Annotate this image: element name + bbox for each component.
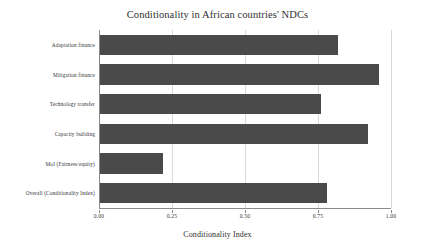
chart-figure: Conditionality in African countries' NDC…	[0, 0, 435, 251]
y-axis-label: Adaptation finance	[0, 42, 95, 48]
x-axis-tick-labels: 0.000.250.500.751.00	[0, 210, 435, 224]
y-axis-label: Overall (Conditionality Index)	[0, 190, 95, 196]
x-axis-tick-label: 0.50	[240, 213, 251, 219]
x-axis-title: Conditionality Index	[0, 230, 435, 239]
x-axis-tick-label: 0.25	[167, 213, 178, 219]
y-axis-category-labels: Adaptation financeMitigation financeTech…	[0, 30, 95, 208]
y-axis-label: Technology transfer	[0, 101, 95, 107]
gridline	[391, 30, 392, 208]
bar-row[interactable]	[99, 178, 391, 208]
chart-title: Conditionality in African countries' NDC…	[0, 9, 435, 20]
bar-row[interactable]	[99, 60, 391, 90]
y-axis-label: Capacity building	[0, 131, 95, 137]
y-axis-line	[99, 30, 100, 208]
bar[interactable]	[99, 94, 321, 115]
x-axis-line	[99, 208, 391, 209]
bar-row[interactable]	[99, 30, 391, 60]
bar[interactable]	[99, 64, 379, 85]
bar-row[interactable]	[99, 119, 391, 149]
plot-area	[99, 30, 391, 208]
bar[interactable]	[99, 124, 368, 145]
bar-row[interactable]	[99, 149, 391, 179]
y-axis-label: Mitigation finance	[0, 72, 95, 78]
bar[interactable]	[99, 183, 327, 204]
bar-row[interactable]	[99, 89, 391, 119]
x-axis-tick-label: 0.00	[94, 213, 105, 219]
x-axis-tick-label: 1.00	[386, 213, 397, 219]
bar[interactable]	[99, 35, 338, 56]
y-axis-label: MoI (Fairness/equity)	[0, 161, 95, 167]
bar-series	[99, 30, 391, 208]
bar[interactable]	[99, 153, 163, 174]
x-axis-tick-label: 0.75	[313, 213, 324, 219]
